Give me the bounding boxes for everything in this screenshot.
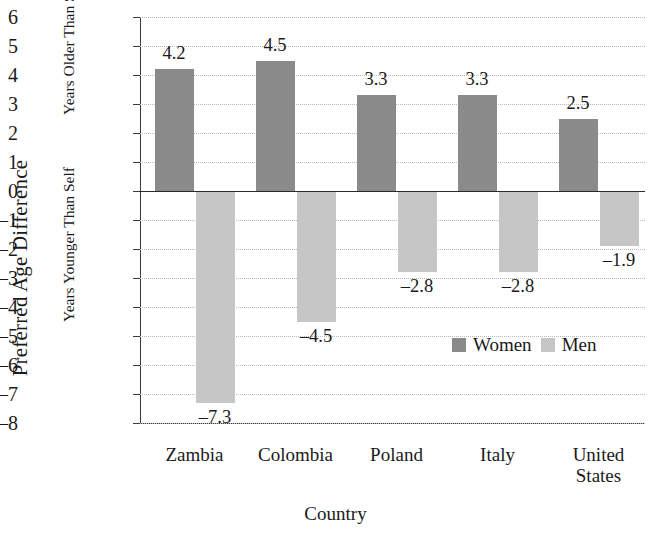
x-axis-category-line: States <box>573 465 625 486</box>
value-label-men: –7.3 <box>199 407 231 428</box>
legend-label-women: Women <box>473 334 532 356</box>
legend-item-men: Men <box>541 334 597 356</box>
y-axis-tick-label: –4 <box>0 296 18 319</box>
x-axis-category-line: Italy <box>480 444 515 465</box>
x-axis-category-label: Zambia <box>165 444 223 465</box>
gridline <box>140 17 645 18</box>
legend-swatch-women-icon <box>452 338 466 352</box>
y-axis-tick-label: –3 <box>0 267 18 290</box>
plot-area: 4.2–7.34.5–4.53.3–2.83.3–2.82.5–1.9 <box>140 17 645 423</box>
x-axis-category-line: United <box>573 444 625 465</box>
legend-label-men: Men <box>562 334 597 356</box>
bar-women-poland <box>357 95 396 191</box>
y-axis-tick <box>133 17 140 18</box>
value-label-women: 2.5 <box>566 93 589 114</box>
legend: Women Men <box>452 334 596 356</box>
y-axis-tick-label: 5 <box>0 35 18 58</box>
legend-swatch-men-icon <box>541 338 555 352</box>
legend-item-women: Women <box>452 334 532 356</box>
bar-men-zambia <box>196 191 235 403</box>
value-label-women: 3.3 <box>465 69 488 90</box>
y-axis-tick-label: –8 <box>0 412 18 435</box>
value-label-men: –1.9 <box>603 250 635 271</box>
y-axis-tick-label: –2 <box>0 238 18 261</box>
y-axis-tick-label: 6 <box>0 6 18 29</box>
y-axis-tick <box>133 423 140 424</box>
y-axis-tick-label: –6 <box>0 354 18 377</box>
y-axis-tick <box>133 365 140 366</box>
value-label-women: 3.3 <box>364 69 387 90</box>
y-axis-tick <box>133 278 140 279</box>
y-axis-tick <box>133 104 140 105</box>
x-axis-category-label: UnitedStates <box>573 444 625 487</box>
value-label-men: –2.8 <box>502 276 534 297</box>
x-axis-category-label: Italy <box>480 444 515 465</box>
x-axis-category-line: Poland <box>370 444 423 465</box>
bar-women-colombia <box>256 61 295 192</box>
value-label-men: –4.5 <box>300 326 332 347</box>
y-axis-tick-label: 0 <box>0 180 18 203</box>
y-axis-tick-label: –5 <box>0 325 18 348</box>
bar-women-italy <box>458 95 497 191</box>
value-label-women: 4.2 <box>162 43 185 64</box>
gridline <box>140 46 645 47</box>
bar-men-united-states <box>600 191 639 246</box>
x-axis-category-label: Poland <box>370 444 423 465</box>
x-axis-category-line: Colombia <box>258 444 333 465</box>
y-axis-tick-label: –1 <box>0 209 18 232</box>
x-axis-title: Country <box>0 503 671 525</box>
bar-men-poland <box>398 191 437 272</box>
x-axis-category-line: Zambia <box>165 444 223 465</box>
bar-women-zambia <box>155 69 194 191</box>
y-axis-tick <box>133 46 140 47</box>
y-axis-tick <box>133 220 140 221</box>
y-axis-tick <box>133 162 140 163</box>
bar-men-italy <box>499 191 538 272</box>
x-axis-category-label: Colombia <box>258 444 333 465</box>
y-axis-tick-label: 1 <box>0 151 18 174</box>
value-label-women: 4.5 <box>263 35 286 56</box>
y-axis-tick <box>133 133 140 134</box>
y-axis-tick <box>133 307 140 308</box>
y-axis-tick-label: –7 <box>0 383 18 406</box>
y-axis-tick <box>133 394 140 395</box>
y-axis-tick <box>133 336 140 337</box>
value-label-men: –2.8 <box>401 276 433 297</box>
bar-women-united-states <box>559 119 598 192</box>
gridline <box>140 75 645 76</box>
bar-men-colombia <box>297 191 336 322</box>
y-axis-tick <box>133 75 140 76</box>
y-axis-tick-label: 4 <box>0 64 18 87</box>
y-axis-lower-label: Years Younger Than Self <box>60 167 78 322</box>
y-axis-upper-label: Years Older Than Self <box>60 0 78 115</box>
zero-line <box>139 191 645 192</box>
y-axis-tick-label: 2 <box>0 122 18 145</box>
y-axis-tick <box>133 249 140 250</box>
y-axis-tick-label: 3 <box>0 93 18 116</box>
